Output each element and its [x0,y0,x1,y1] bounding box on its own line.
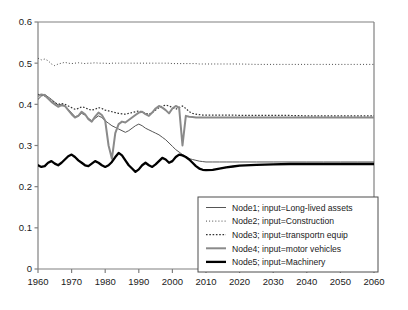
x-axis-tick-label: 2050 [330,276,351,287]
x-axis-tick-label: 2020 [229,276,250,287]
y-axis-tick-label: 0.4 [19,99,32,110]
legend-item-label: Node5; input=Machinery [232,257,326,267]
x-axis-tick-label: 1990 [128,276,149,287]
x-axis-tick-label: 2060 [363,276,384,287]
legend-item-label: Node2; input=Construction [232,216,334,226]
x-axis-tick-label: 1960 [27,276,48,287]
y-axis-tick-label: 0.2 [19,181,32,192]
y-axis-tick-label: 0.6 [19,16,32,27]
chart-legend: Node1; input=Long-lived assetsNode2; inp… [198,197,378,272]
y-axis-tick-label: 0.1 [19,222,32,233]
line-chart-figure: 00.10.20.30.40.50.6 19601970198019902000… [0,0,408,310]
legend-item-label: Node3; input=transportn equip [232,230,348,240]
x-axis-tick-label: 2040 [296,276,317,287]
y-axis-tick-label: 0 [27,263,32,274]
x-axis-tick-label: 2000 [162,276,183,287]
x-axis-tick-label: 2030 [263,276,284,287]
x-axis-tick-label: 2010 [195,276,216,287]
x-axis-tick-label: 1970 [61,276,82,287]
y-axis-tick-label: 0.3 [19,140,32,151]
legend-item-label: Node1; input=Long-lived assets [232,203,353,213]
legend-item-label: Node4; input=motor vehicles [232,244,341,254]
x-axis-tick-label: 1980 [95,276,116,287]
y-axis-tick-label: 0.5 [19,58,32,69]
